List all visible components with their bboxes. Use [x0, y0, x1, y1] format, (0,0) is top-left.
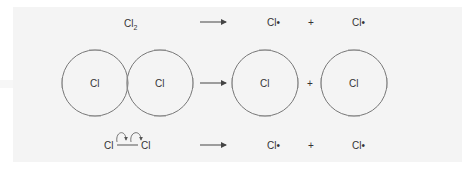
plus-sign: +: [307, 78, 313, 89]
atom-label-4: Cl: [349, 78, 358, 89]
homolytic-cleavage-diagram: Cl2 Cl• + Cl• Cl Cl Cl + Cl Cl Cl Cl• + …: [0, 0, 462, 170]
atom-label-1: Cl: [90, 78, 99, 89]
chlorine-radical-1: Cl•: [267, 140, 280, 151]
atom-label-2: Cl: [155, 78, 164, 89]
plus-sign: +: [308, 140, 314, 151]
plus-sign: +: [308, 17, 314, 28]
chlorine-radical-1: Cl•: [267, 17, 280, 28]
atom-label-3: Cl: [260, 78, 269, 89]
chlorine-radical-2: Cl•: [352, 17, 365, 28]
bond-cl-left: Cl: [104, 140, 113, 151]
bond-cl-right: Cl: [141, 140, 150, 151]
chlorine-radical-2: Cl•: [352, 140, 365, 151]
